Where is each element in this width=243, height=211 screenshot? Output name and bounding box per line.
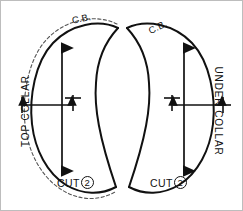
under-collar-cut-instruction: CUT 2 (150, 176, 187, 189)
top-collar-seam-allowance-line (24, 19, 117, 199)
under-collar-name-label: UNDER COLLAR (213, 66, 223, 156)
under-collar-cut-label: CUT (150, 177, 173, 189)
under-collar-cut-quantity: 2 (174, 176, 187, 189)
top-collar-cut-quantity: 2 (81, 176, 94, 189)
pattern-line-drawing (1, 1, 243, 211)
top-collar-cutting-line (31, 24, 118, 193)
top-collar-cut-label: CUT (57, 177, 80, 189)
under-collar-cutting-line (127, 24, 214, 193)
top-collar-name-label: TOP COLLAR (21, 66, 31, 156)
pattern-diagram-sheet: C.B. C.B. TOP COLLAR UNDER COLLAR CUT 2 … (0, 0, 243, 211)
top-collar-cut-instruction: CUT 2 (57, 176, 94, 189)
